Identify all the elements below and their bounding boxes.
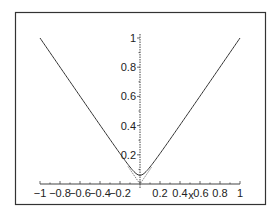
y-tick-label: 0.6	[121, 90, 136, 102]
x-tick-label: −0.8	[49, 187, 71, 199]
x-tick-label: 0.6	[193, 187, 208, 199]
x-tick-label: −0.2	[109, 187, 131, 199]
x-tick-label: 0.4	[172, 187, 187, 199]
y-tick-label: 0.4	[121, 120, 136, 132]
x-tick-label: −0.6	[69, 187, 91, 199]
x-tick-label: −0.4	[89, 187, 111, 199]
chart: −1−0.8−0.6−0.4−0.20.20.40.60.81x0.20.40.…	[0, 0, 279, 219]
x-tick-label: 0.8	[212, 187, 227, 199]
y-tick-label: 1	[130, 32, 136, 44]
x-tick-label: −1	[34, 187, 47, 199]
x-axis-label: x	[188, 189, 194, 201]
tick-labels: −1−0.8−0.6−0.4−0.20.20.40.60.81x0.20.40.…	[34, 32, 243, 201]
y-tick-label: 0.2	[121, 149, 136, 161]
x-tick-label: 1	[237, 187, 243, 199]
x-tick-label: 0.2	[152, 187, 167, 199]
y-tick-label: 0.8	[121, 61, 136, 73]
axes	[40, 34, 240, 188]
